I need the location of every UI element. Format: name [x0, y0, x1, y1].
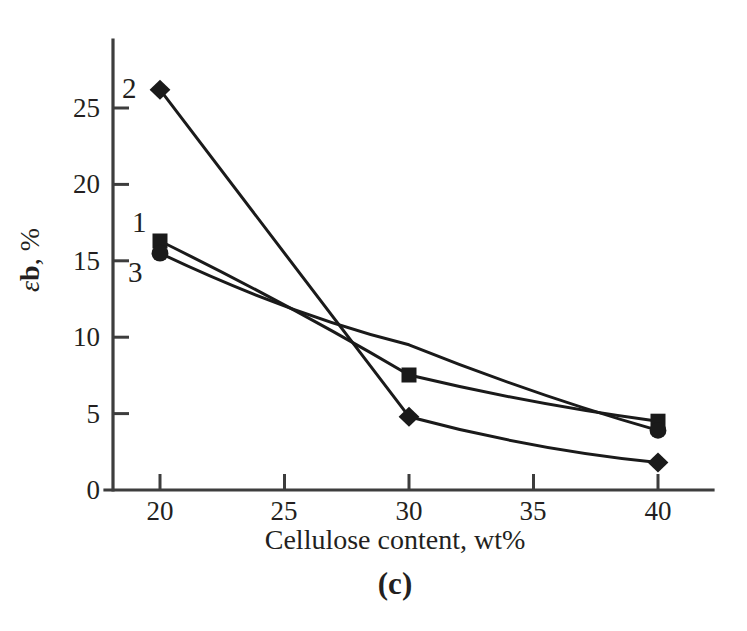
data-point-marker-diamond [150, 80, 171, 100]
series-1-curve [160, 241, 658, 421]
y-axis-ticks [113, 108, 129, 414]
x-axis-title: Cellulose content, wt% [265, 524, 526, 556]
y-tick-label-25: 25 [56, 95, 100, 122]
data-point-marker-circle [650, 422, 667, 439]
y-tick-label-10: 10 [56, 324, 100, 351]
x-tick-label-40: 40 [645, 498, 672, 525]
data-point-marker-square [402, 368, 417, 383]
x-axis-ticks [160, 474, 658, 490]
curve-label-2: 2 [122, 74, 137, 103]
y-tick-label-15: 15 [56, 248, 100, 275]
x-tick-label-20: 20 [147, 498, 174, 525]
y-axis-title-unit: , % [14, 228, 45, 265]
x-tick-label-30: 30 [396, 498, 423, 525]
x-tick-label-25: 25 [271, 498, 298, 525]
series-1-markers [153, 234, 666, 429]
curve-label-1: 1 [132, 208, 147, 237]
y-tick-label-0: 0 [56, 477, 100, 504]
y-tick-label-20: 20 [56, 171, 100, 198]
data-point-marker-diamond [399, 407, 420, 427]
epsilon-glyph: ε [14, 281, 45, 292]
panel-caption: (c) [378, 566, 412, 602]
figure-panel-c: 25 20 15 10 5 0 20 25 30 35 40 2 1 3 εb,… [0, 0, 747, 631]
x-tick-label-35: 35 [520, 498, 547, 525]
data-point-marker-circle [152, 245, 169, 262]
y-tick-label-5: 5 [56, 401, 100, 428]
curve-label-3: 3 [128, 258, 143, 287]
subscript-b-glyph: b [14, 265, 45, 281]
data-point-marker-diamond [648, 453, 669, 473]
y-axis-title: εb, % [14, 228, 46, 292]
y-axis-title-container: εb, % [8, 180, 52, 340]
